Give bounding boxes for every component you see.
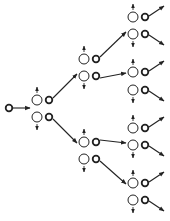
large-circle-node [128,195,138,205]
small-circle-node [142,142,149,149]
small-circle-node [142,14,149,21]
small-circle-node [6,105,13,112]
large-circle-node [79,154,89,164]
small-circle-node [93,56,100,63]
small-circle-node [142,180,149,187]
branch-arrow-down [53,119,77,143]
small-circle-node [93,156,100,163]
small-circle-node [142,31,149,38]
outgoing-arrow-up [149,172,164,182]
branch-arrow-up [100,32,126,57]
outgoing-arrow-up [149,6,164,16]
large-circle-node [128,140,138,150]
branch-arrow-up [53,74,77,98]
small-circle-node [142,125,149,132]
small-circle-node [142,197,149,204]
large-circle-node [128,123,138,133]
small-circle-node [46,97,53,104]
branch-arrow-down [100,73,126,78]
outgoing-arrow-down [149,201,164,211]
large-circle-node [128,178,138,188]
outgoing-arrow-down [149,91,164,101]
diagram-content [6,4,164,213]
large-circle-node [128,12,138,22]
small-circle-node [142,87,149,94]
large-circle-node [128,67,138,77]
outgoing-arrow-down [149,146,164,156]
large-circle-node [32,95,42,105]
small-circle-node [142,69,149,76]
large-circle-node [79,137,89,147]
branch-arrow-down [100,161,126,184]
outgoing-arrow-up [149,117,164,127]
small-circle-node [93,73,100,80]
large-circle-node [79,71,89,81]
large-circle-node [128,85,138,95]
small-circle-node [93,139,100,146]
large-circle-node [128,29,138,39]
branching-diagram [0,0,170,221]
outgoing-arrow-down [149,35,164,45]
large-circle-node [32,112,42,122]
small-circle-node [46,114,53,121]
large-circle-node [79,54,89,64]
branch-arrow-up [100,140,126,143]
outgoing-arrow-up [149,61,164,71]
